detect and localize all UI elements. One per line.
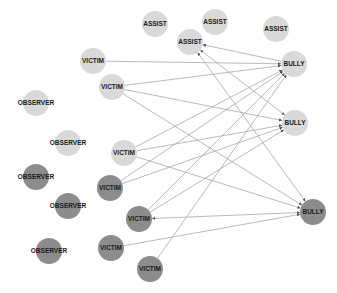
node-label: OBSERVER — [50, 202, 87, 209]
node-label: VICTIM — [139, 265, 161, 272]
node-label: VICTIM — [113, 149, 135, 156]
edge-victim3-bully2 — [137, 125, 282, 151]
node-label: ASSIST — [143, 20, 167, 27]
node-label: OBSERVER — [18, 173, 55, 180]
edge-bully1-assist3 — [203, 45, 282, 62]
node-victim5[interactable]: VICTIM — [126, 206, 152, 232]
node-label: ASSIST — [203, 18, 227, 25]
edge-victim7-bully1 — [157, 75, 286, 259]
node-victim2[interactable]: VICTIM — [99, 74, 125, 100]
node-label: VICTIM — [101, 83, 123, 90]
node-assist3[interactable]: ASSIST — [177, 29, 203, 55]
node-victim1[interactable]: VICTIM — [80, 48, 106, 74]
node-observer2[interactable]: OBSERVER — [50, 130, 87, 156]
node-victim4[interactable]: VICTIM — [97, 175, 123, 201]
edge-victim4-bully1 — [121, 71, 283, 180]
node-observer1[interactable]: OBSERVER — [18, 90, 55, 116]
node-label: OBSERVER — [31, 247, 68, 254]
node-label: VICTIM — [128, 215, 150, 222]
node-label: VICTIM — [99, 184, 121, 191]
node-observer5[interactable]: OBSERVER — [31, 238, 68, 264]
node-bully2[interactable]: BULLY — [282, 110, 308, 136]
node-victim7[interactable]: VICTIM — [137, 256, 163, 282]
node-label: BULLY — [283, 60, 305, 67]
edge-victim5-bully3 — [152, 213, 300, 219]
node-assist1[interactable]: ASSIST — [142, 11, 168, 37]
edge-victim2-bully1 — [125, 66, 281, 86]
node-label: ASSIST — [178, 38, 202, 45]
node-bully3[interactable]: BULLY — [300, 199, 326, 225]
node-assist2[interactable]: ASSIST — [202, 9, 228, 35]
node-layer: ASSISTASSISTASSISTASSISTBULLYBULLYBULLYV… — [18, 9, 326, 282]
node-observer4[interactable]: OBSERVER — [50, 193, 87, 219]
node-victim3[interactable]: VICTIM — [111, 140, 137, 166]
edge-victim2-bully2 — [125, 90, 282, 121]
node-label: BULLY — [302, 208, 324, 215]
node-victim6[interactable]: VICTIM — [98, 235, 124, 261]
network-graph: ASSISTASSISTASSISTASSISTBULLYBULLYBULLYV… — [0, 0, 337, 293]
node-label: ASSIST — [264, 25, 288, 32]
node-label: VICTIM — [82, 57, 104, 64]
node-label: VICTIM — [100, 244, 122, 251]
node-assist4[interactable]: ASSIST — [263, 16, 289, 42]
edge-victim5-bully2 — [150, 130, 284, 212]
node-observer3[interactable]: OBSERVER — [18, 164, 55, 190]
node-label: BULLY — [284, 119, 306, 126]
node-label: OBSERVER — [18, 99, 55, 106]
edge-victim3-bully3 — [136, 157, 300, 208]
edge-victim1-bully1 — [106, 61, 281, 64]
edge-victim2-bully3 — [123, 94, 302, 205]
node-bully1[interactable]: BULLY — [281, 51, 307, 77]
node-label: OBSERVER — [50, 139, 87, 146]
